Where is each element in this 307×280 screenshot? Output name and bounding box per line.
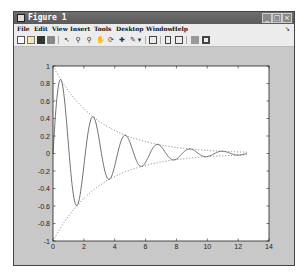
toolbar-separator — [145, 36, 146, 44]
zoom-in-icon[interactable]: ⚲ — [74, 36, 82, 44]
y-tick-label: -0.6 — [38, 203, 50, 210]
hide-plot-tools-icon[interactable] — [191, 36, 199, 44]
y-tick-label: 0.8 — [40, 80, 50, 87]
x-tick-label: 10 — [203, 243, 211, 250]
title-bar[interactable]: Figure 1 _ □ × — [14, 12, 294, 24]
data-cursor-icon[interactable]: ✚ — [118, 36, 126, 44]
menu-edit[interactable]: Edit — [34, 24, 48, 34]
menu-tools[interactable]: Tools — [94, 24, 111, 34]
toolbar-separator — [160, 36, 161, 44]
menu-desktop[interactable]: Desktop — [116, 24, 144, 34]
edit-plot-pointer-icon[interactable]: ↖ — [63, 36, 71, 44]
new-figure-icon[interactable] — [17, 36, 25, 44]
axes[interactable]: 0246810121410.80.60.40.20-0.2-0.4-0.6-0.… — [14, 47, 294, 265]
brush-icon[interactable]: ✎ — [129, 36, 137, 44]
insert-legend-icon[interactable] — [175, 36, 183, 44]
menu-help[interactable]: Help — [172, 24, 188, 34]
open-file-icon[interactable] — [27, 36, 35, 44]
x-tick-label: 0 — [51, 243, 55, 250]
menu-file[interactable]: File — [17, 24, 30, 34]
save-icon[interactable] — [37, 36, 45, 44]
x-tick-label: 2 — [82, 243, 86, 250]
show-plot-tools-icon[interactable] — [202, 36, 210, 44]
print-icon[interactable] — [47, 36, 55, 44]
link-plot-icon[interactable] — [149, 36, 157, 44]
y-tick-label: -1 — [44, 238, 50, 245]
x-tick-label: 14 — [265, 243, 273, 250]
menu-view[interactable]: View — [52, 24, 68, 34]
x-tick-label: 6 — [144, 243, 148, 250]
menu-window[interactable]: Window — [146, 24, 173, 34]
y-tick-label: 0.2 — [40, 133, 50, 140]
toolbar-separator — [58, 36, 59, 44]
x-tick-label: 12 — [234, 243, 242, 250]
pan-hand-icon[interactable]: ✋ — [96, 36, 104, 44]
matlab-figure-icon — [17, 14, 25, 22]
menu-bar: File Edit View Insert Tools Desktop Wind… — [14, 24, 294, 34]
insert-colorbar-icon[interactable] — [165, 36, 171, 44]
minimize-button[interactable]: _ — [262, 13, 272, 23]
y-tick-label: -0.8 — [38, 220, 50, 227]
maximize-button[interactable]: □ — [272, 13, 282, 23]
menu-insert[interactable]: Insert — [70, 24, 90, 34]
y-tick-label: -0.4 — [38, 185, 50, 192]
brush-dropdown-icon[interactable]: ▾ — [137, 36, 142, 44]
close-button[interactable]: × — [282, 13, 292, 23]
menubar-dock-arrow-icon[interactable]: ➘ — [285, 24, 290, 34]
y-tick-label: -0.2 — [38, 168, 50, 175]
rotate-3d-icon[interactable]: ⟳ — [107, 36, 115, 44]
y-tick-label: 1 — [46, 63, 50, 70]
x-tick-label: 8 — [174, 243, 178, 250]
x-tick-label: 4 — [113, 243, 117, 250]
toolbar-separator — [186, 36, 187, 44]
figure-window: Figure 1 _ □ × File Edit View Insert Too… — [13, 11, 295, 266]
y-tick-label: 0.6 — [40, 98, 50, 105]
y-tick-label: 0 — [46, 150, 50, 157]
figure-toolbar: ↖ ⚲ ⚲ ✋ ⟳ ✚ ✎ ▾ — [14, 34, 294, 47]
window-title: Figure 1 — [28, 12, 67, 24]
zoom-out-icon[interactable]: ⚲ — [85, 36, 93, 44]
figure-canvas: 0246810121410.80.60.40.20-0.2-0.4-0.6-0.… — [14, 47, 294, 265]
y-tick-label: 0.4 — [40, 115, 50, 122]
